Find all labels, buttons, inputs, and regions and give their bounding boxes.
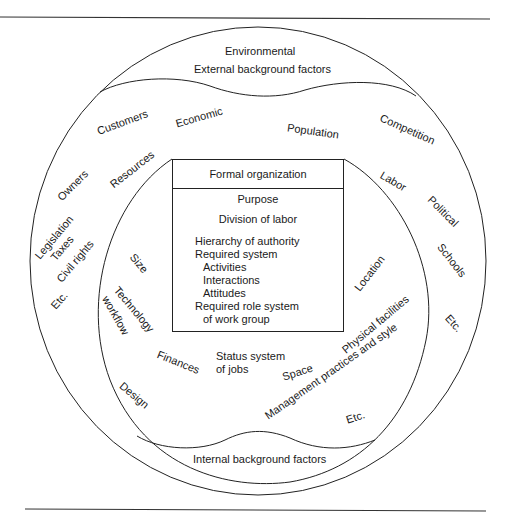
item-division-of-labor: Division of labor <box>173 213 343 226</box>
environmental-heading: Environmental <box>225 46 295 57</box>
internal-background-label: Internal background factors <box>193 454 326 465</box>
factor-status-system: Status system <box>216 351 285 362</box>
item-hierarchy-of-authority: Hierarchy of authority <box>173 235 343 248</box>
item-of-work-group: of work group <box>173 313 343 326</box>
bottom-rule <box>25 509 486 511</box>
top-rule <box>0 17 490 19</box>
item-required-system: Required system <box>173 248 343 261</box>
item-interactions: Interactions <box>173 274 343 287</box>
formal-organization-list: Purpose Division of labor Hierarchy of a… <box>173 189 343 326</box>
item-purpose: Purpose <box>173 193 343 206</box>
item-required-role-system: Required role system <box>173 300 343 313</box>
internal-boundary-wave <box>137 431 375 448</box>
external-boundary-wave <box>100 79 416 96</box>
external-background-label: External background factors <box>194 64 331 75</box>
formal-organization-box: Formal organization Purpose Division of … <box>172 159 344 332</box>
factor-of-jobs: of jobs <box>216 364 248 375</box>
item-activities: Activities <box>173 261 343 274</box>
item-attitudes: Attitudes <box>173 287 343 300</box>
formal-organization-title: Formal organization <box>173 160 343 189</box>
